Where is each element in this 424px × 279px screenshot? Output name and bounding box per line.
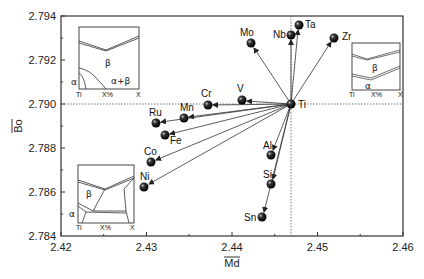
y-tick-label: 2.786 — [28, 186, 56, 198]
label-zr: Zr — [342, 31, 352, 42]
label-ta: Ta — [305, 19, 316, 30]
svg-text:Ti: Ti — [76, 91, 82, 98]
point-fe — [161, 131, 170, 140]
inset-label-beta: β — [105, 58, 111, 68]
chart: 2.794 2.792 2.790 2.788 2.786 2.784 Bo 2… — [0, 0, 424, 279]
x-tick-label: 2.42 — [50, 241, 71, 253]
svg-text:Ti: Ti — [76, 224, 82, 231]
label-ru: Ru — [149, 107, 162, 118]
svg-text:X%: X% — [102, 91, 113, 98]
point-v — [238, 96, 247, 105]
y-axis-title: Bo — [12, 119, 24, 132]
point-zr — [330, 34, 339, 43]
label-v: V — [237, 83, 244, 94]
y-tick-label: 2.794 — [28, 10, 56, 22]
svg-text:β: β — [86, 189, 92, 199]
label-al: Al — [263, 140, 272, 151]
x-tick-label: 2.45 — [307, 241, 328, 253]
point-mo — [247, 39, 256, 48]
point-al — [267, 151, 276, 160]
label-ni: Ni — [140, 171, 149, 182]
point-co — [147, 158, 156, 167]
point-cr — [204, 101, 213, 110]
point-labels: Ti Ta Nb Mo Zr V Cr Mn Ru Fe Co Ni Al Si… — [140, 19, 352, 223]
x-axis: 2.42 2.43 2.44 2.45 2.46 Md — [50, 232, 413, 269]
point-sn — [258, 213, 267, 222]
point-si — [267, 180, 276, 189]
inset-label-alpha-beta: α+β — [111, 76, 130, 86]
svg-text:Ti: Ti — [349, 91, 355, 98]
point-ta — [295, 21, 304, 30]
inset-phase-diagram-right: β α Ti X% X — [349, 43, 403, 98]
y-tick-label: 2.788 — [28, 142, 56, 154]
inset-phase-diagram-bottom-left: β α Ti X% X — [69, 165, 135, 231]
label-fe: Fe — [170, 135, 182, 146]
svg-text:β: β — [372, 63, 378, 73]
svg-text:α: α — [365, 81, 371, 91]
label-co: Co — [144, 146, 157, 157]
point-ni — [140, 183, 149, 192]
label-ti: Ti — [298, 99, 306, 110]
y-tick-label: 2.790 — [28, 98, 56, 110]
point-ru — [152, 119, 161, 128]
svg-text:X: X — [398, 91, 403, 98]
x-tick-label: 2.43 — [136, 241, 157, 253]
svg-text:X: X — [130, 224, 135, 231]
x-tick-label: 2.44 — [221, 241, 242, 253]
label-mn: Mn — [180, 102, 194, 113]
point-nb — [287, 31, 296, 40]
x-tick-label: 2.46 — [392, 241, 413, 253]
vector-arrows — [149, 30, 331, 212]
svg-text:X%: X% — [371, 91, 382, 98]
point-mn — [180, 114, 189, 123]
label-nb: Nb — [273, 29, 286, 40]
label-cr: Cr — [201, 88, 212, 99]
svg-text:X: X — [136, 91, 141, 98]
label-mo: Mo — [240, 27, 254, 38]
label-si: Si — [263, 169, 272, 180]
svg-text:α: α — [69, 209, 75, 219]
inset-phase-diagram-top-left: β α α+β Ti X% X — [71, 27, 141, 98]
y-axis: 2.794 2.792 2.790 2.788 2.786 2.784 Bo — [12, 10, 65, 242]
label-sn: Sn — [244, 212, 256, 223]
svg-text:X%: X% — [100, 224, 111, 231]
x-axis-title: Md — [224, 257, 239, 269]
y-tick-label: 2.792 — [28, 54, 56, 66]
point-ti — [287, 100, 296, 109]
inset-label-alpha: α — [71, 77, 77, 87]
